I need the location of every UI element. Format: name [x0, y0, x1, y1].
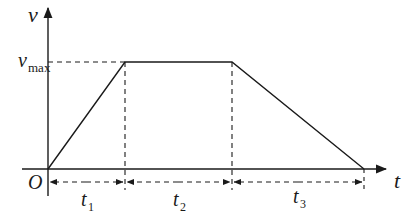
- velocity-curve: [48, 62, 364, 169]
- t1-label: t: [81, 188, 87, 210]
- t-axis-label: t: [394, 168, 401, 193]
- t3-label: t: [293, 185, 299, 207]
- t3-subscript: 3: [300, 197, 306, 211]
- vt-diagram: v t O v max t 1 t 2 t 3: [0, 0, 412, 218]
- v-axis-label: v: [28, 2, 38, 27]
- t2-label: t: [173, 188, 179, 210]
- vmax-label: v: [18, 49, 27, 71]
- t2-subscript: 2: [180, 200, 186, 214]
- origin-label: O: [28, 171, 42, 193]
- t1-subscript: 1: [88, 200, 94, 214]
- vmax-subscript: max: [28, 60, 51, 75]
